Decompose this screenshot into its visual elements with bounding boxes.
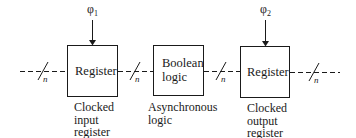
boolean-logic-text: Boolean logic	[162, 56, 204, 84]
phi-symbol: φ	[87, 2, 94, 16]
output-register-caption: Clocked output register	[247, 102, 287, 138]
bus-width-label: n	[43, 74, 48, 84]
clock1-arrowhead	[89, 40, 96, 46]
output-register-text: Register	[247, 65, 289, 79]
input-register-text: Register	[75, 64, 117, 78]
clock-phi1-label: φ1	[87, 2, 98, 18]
phi-subscript: 1	[94, 9, 98, 18]
bus-width-label: n	[135, 74, 140, 84]
bus-width-label: n	[221, 74, 226, 84]
input-register-caption: Clocked input register	[74, 101, 114, 138]
boolean-logic-caption: Asynchronous logic	[148, 101, 217, 126]
clock-phi2-label: φ2	[260, 2, 271, 18]
phi-subscript: 2	[267, 9, 271, 18]
bus-width-label: n	[314, 75, 319, 85]
clock2-arrowhead	[262, 41, 269, 47]
phi-symbol: φ	[260, 2, 267, 16]
